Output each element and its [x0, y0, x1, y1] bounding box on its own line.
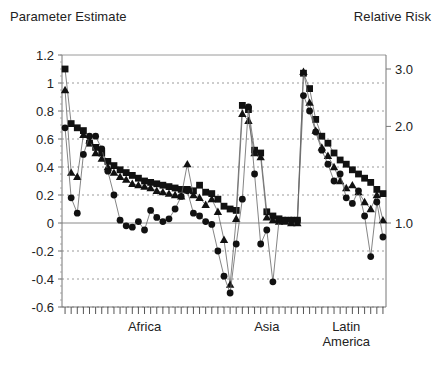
marker-circle	[62, 124, 69, 131]
marker-circle	[251, 171, 258, 178]
marker-square	[239, 102, 246, 109]
marker-circle	[239, 196, 246, 203]
y2-axis-tick-label: 3.0	[395, 62, 413, 77]
marker-square	[172, 185, 179, 192]
marker-square	[349, 166, 356, 173]
marker-circle	[288, 217, 295, 224]
y-axis-tick-label: -0.2	[0, 244, 54, 259]
y-axis-tick-label: -0.6	[0, 300, 54, 315]
marker-circle	[361, 213, 368, 220]
marker-circle	[312, 129, 319, 136]
marker-square	[166, 183, 173, 190]
series-circles	[62, 92, 387, 296]
marker-circle	[104, 168, 111, 175]
marker-square	[202, 189, 209, 196]
y-axis-tick-label: 1.2	[0, 48, 54, 63]
marker-circle	[117, 217, 124, 224]
marker-square	[337, 157, 344, 164]
marker-circle	[331, 178, 338, 185]
marker-circle	[214, 248, 221, 255]
marker-square	[343, 161, 350, 168]
marker-circle	[257, 241, 264, 248]
marker-circle	[367, 253, 374, 260]
marker-circle	[282, 217, 289, 224]
marker-circle	[208, 221, 215, 228]
marker-circle	[263, 227, 270, 234]
marker-circle	[147, 207, 154, 214]
marker-circle	[202, 218, 209, 225]
marker-square	[117, 166, 124, 173]
marker-square	[325, 140, 332, 147]
series-squares	[62, 66, 387, 224]
marker-triangle	[67, 168, 75, 175]
marker-circle	[380, 234, 387, 241]
x-axis-group-label: LatinAmerica	[322, 319, 370, 349]
marker-circle	[159, 218, 166, 225]
marker-circle	[325, 161, 332, 168]
data-series-layer	[61, 66, 387, 297]
marker-circle	[373, 199, 380, 206]
marker-square	[367, 179, 374, 186]
marker-circle	[172, 206, 179, 213]
marker-circle	[221, 273, 228, 280]
marker-circle	[349, 200, 356, 207]
marker-circle	[74, 210, 81, 217]
marker-square	[62, 66, 69, 73]
marker-square	[331, 150, 338, 157]
marker-circle	[129, 224, 136, 231]
marker-circle	[270, 278, 277, 285]
marker-circle	[111, 192, 118, 199]
marker-square	[123, 169, 130, 176]
marker-square	[361, 175, 368, 182]
marker-circle	[343, 194, 350, 201]
marker-square	[74, 124, 81, 131]
y-axis-tick-label: 0.8	[0, 104, 54, 119]
marker-square	[68, 120, 75, 127]
marker-circle	[123, 222, 130, 229]
marker-circle	[98, 145, 105, 152]
marker-circle	[300, 92, 307, 99]
marker-circle	[68, 194, 75, 201]
x-axis-group-label: Africa	[128, 319, 161, 334]
marker-circle	[166, 215, 173, 222]
chart-figure: Parameter Estimate Relative Risk 1.210.8…	[0, 0, 440, 365]
y-axis-tick-label: 0	[0, 216, 54, 231]
marker-square	[153, 180, 160, 187]
marker-circle	[318, 147, 325, 154]
x-axis-group-label: Asia	[254, 319, 279, 334]
marker-square	[135, 175, 142, 182]
y-axis-tick-label: 0.4	[0, 160, 54, 175]
marker-circle	[294, 217, 301, 224]
marker-square	[178, 186, 185, 193]
marker-circle	[86, 133, 93, 140]
marker-triangle	[348, 181, 356, 188]
y2-axis-tick-label: 2.0	[395, 119, 413, 134]
marker-circle	[141, 227, 148, 234]
marker-square	[318, 133, 325, 140]
marker-circle	[276, 217, 283, 224]
marker-circle	[227, 290, 234, 297]
marker-circle	[190, 210, 197, 217]
x-axis-ticks	[65, 307, 383, 314]
marker-circle	[184, 187, 191, 194]
plot-area	[0, 0, 440, 365]
marker-square	[111, 162, 118, 169]
y-axis-tick-label: 0.6	[0, 132, 54, 147]
marker-circle	[245, 103, 252, 110]
marker-circle	[337, 171, 344, 178]
y-axis-tick-label: 1	[0, 76, 54, 91]
y2-axis-ticks	[386, 69, 391, 223]
marker-circle	[196, 213, 203, 220]
marker-circle	[135, 218, 142, 225]
marker-circle	[306, 108, 313, 115]
marker-square	[355, 171, 362, 178]
x-axis-group-label-line: America	[322, 334, 370, 349]
marker-circle	[80, 151, 87, 158]
marker-square	[380, 190, 387, 197]
y-axis-tick-label: -0.4	[0, 272, 54, 287]
marker-circle	[178, 193, 185, 200]
marker-square	[227, 206, 234, 213]
marker-square	[129, 172, 136, 179]
x-axis-group-label-line: Latin	[322, 319, 370, 334]
marker-square	[196, 182, 203, 189]
